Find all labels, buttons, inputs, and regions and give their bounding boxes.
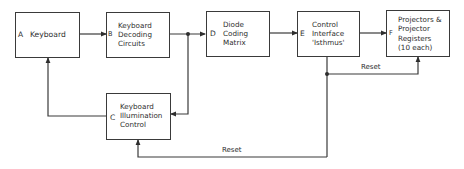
block-label: Keyboard [30,30,66,39]
block-letter: D [210,29,216,38]
block-letter: A [18,30,23,39]
block-label: Keyboard Decoding Circuits [118,21,152,49]
block-label: Diode Coding Matrix [223,20,248,48]
block-label: Control Interface 'Isthmus' [312,20,345,48]
block-letter: C [110,113,115,122]
junction-dot [325,72,329,76]
block-b-keyboard-decoding-circuits: B Keyboard Decoding Circuits [106,12,170,58]
block-e-control-interface: E Control Interface 'Isthmus' [297,11,360,57]
block-c-keyboard-illumination-control: C Keyboard Illumination Control [106,93,171,140]
block-d-diode-coding-matrix: D Diode Coding Matrix [206,11,270,57]
block-letter: E [300,29,305,38]
block-letter: F [389,29,393,38]
reset-label-lower: Reset [222,146,242,154]
block-letter: B [108,30,112,39]
reset-label-upper: Reset [361,63,381,71]
junction-dot [186,32,190,36]
block-f-projectors-registers: F Projectors & Projector Registers (10 e… [386,10,450,57]
block-label: Keyboard Illumination Control [120,102,162,130]
block-a-keyboard: A Keyboard [15,12,80,58]
block-label: Projectors & Projector Registers (10 eac… [398,15,442,53]
